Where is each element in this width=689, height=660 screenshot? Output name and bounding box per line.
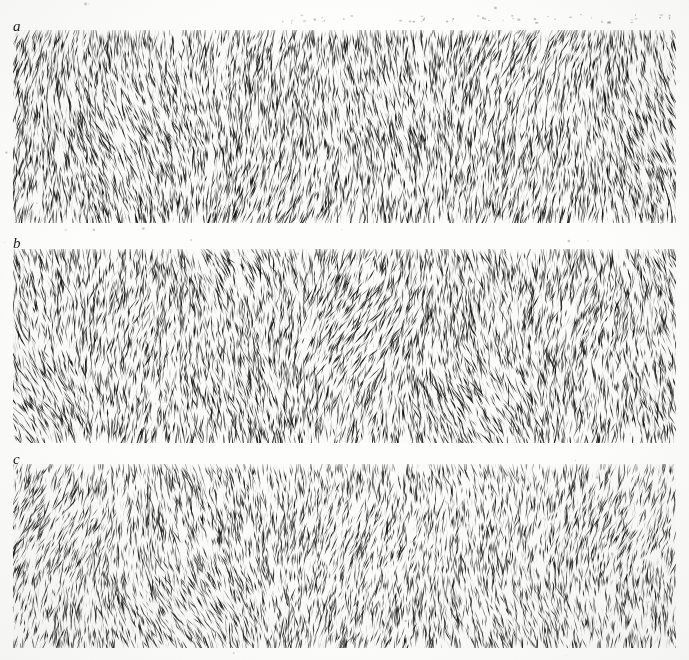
- texture-canvas: [13, 30, 676, 223]
- panel-label-c: c: [13, 452, 20, 467]
- texture-panel-c: [13, 464, 676, 648]
- texture-panel-a: [13, 30, 676, 223]
- texture-panel-b: [13, 249, 676, 443]
- figure-container: a b c: [0, 0, 689, 660]
- panel-label-a: a: [13, 19, 21, 34]
- panel-label-b: b: [13, 236, 21, 251]
- texture-canvas: [13, 464, 676, 648]
- texture-canvas: [13, 249, 676, 443]
